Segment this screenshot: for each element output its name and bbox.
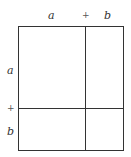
top-label-a: a: [48, 10, 55, 21]
outer-square: [18, 26, 124, 151]
side-label-b: b: [7, 126, 14, 137]
side-label-a: a: [7, 65, 14, 76]
horizontal-divider: [18, 108, 124, 109]
side-label-plus: +: [7, 104, 15, 113]
top-label-plus: +: [82, 11, 90, 20]
vertical-divider: [85, 26, 86, 151]
top-label-b: b: [104, 10, 111, 21]
